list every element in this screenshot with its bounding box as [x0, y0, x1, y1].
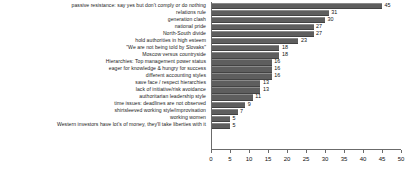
bar-value-label: 13	[263, 86, 269, 92]
x-tick-label: 20	[284, 155, 291, 163]
x-tick-label: 5	[228, 155, 231, 163]
category-label: generation clash	[168, 16, 206, 23]
bar	[211, 17, 325, 23]
x-tick-label: 25	[303, 155, 310, 163]
x-tick	[211, 150, 212, 153]
x-tick-label: 50	[398, 155, 405, 163]
bar-value-label: 45	[385, 2, 391, 8]
bar-value-label: 31	[331, 9, 337, 15]
category-label: authoritarian leadership style	[139, 93, 206, 100]
category-label: Western investors have lot's of money, t…	[57, 121, 206, 128]
bar-value-label: 23	[301, 37, 307, 43]
bar-value-label: 16	[274, 72, 280, 78]
bar	[211, 66, 272, 72]
category-label: Hierarchies: Top management power status	[106, 58, 206, 65]
bar	[211, 10, 329, 16]
category-label: time issues: deadlines are not observed	[114, 100, 206, 107]
category-label: North-South divide	[163, 30, 206, 37]
x-tick-label: 0	[209, 155, 212, 163]
bar-value-label: 27	[316, 30, 322, 36]
bar-value-label: 16	[274, 65, 280, 71]
category-label: "We are not being told by Slovaks"	[126, 44, 206, 51]
bar-value-label: 18	[282, 51, 288, 57]
category-label: shirtsleeved working style/improvisation	[115, 107, 207, 114]
x-tick-label: 40	[360, 155, 367, 163]
x-tick-label: 30	[322, 155, 329, 163]
x-tick	[306, 150, 307, 153]
bar	[211, 116, 230, 122]
horizontal-bar-chart: passive resistance: say yes but don't co…	[0, 0, 416, 170]
bar-value-label: 5	[233, 122, 236, 128]
category-label: working women	[170, 114, 206, 121]
bar-value-label: 9	[248, 101, 251, 107]
bar	[211, 45, 279, 51]
bar-value-label: 18	[282, 44, 288, 50]
x-tick	[382, 150, 383, 153]
bar-value-label: 30	[328, 16, 334, 22]
x-tick	[363, 150, 364, 153]
x-tick-label: 15	[265, 155, 272, 163]
y-axis-line	[211, 2, 212, 150]
bar	[211, 123, 230, 129]
x-tick	[230, 150, 231, 153]
bar	[211, 94, 253, 100]
x-tick	[401, 150, 402, 153]
category-label: relations rule	[176, 9, 206, 16]
bar	[211, 59, 272, 65]
x-tick	[325, 150, 326, 153]
x-tick	[344, 150, 345, 153]
x-tick-label: 35	[341, 155, 348, 163]
bar-value-label: 5	[233, 115, 236, 121]
category-axis-labels: passive resistance: say yes but don't co…	[0, 0, 209, 150]
x-tick-label: 45	[379, 155, 386, 163]
category-label: eager for knowledge & hungry for success	[109, 65, 206, 72]
bar	[211, 87, 260, 93]
x-tick	[268, 150, 269, 153]
bar	[211, 52, 279, 58]
category-label: Moscow versus countryside	[142, 51, 206, 58]
category-label: passive resistance: say yes but don't co…	[72, 2, 206, 9]
category-label: hold authorities in high esteem	[135, 37, 206, 44]
x-tick-label: 10	[246, 155, 253, 163]
category-label: different accounting styles	[146, 72, 206, 79]
bar	[211, 3, 382, 9]
bar	[211, 80, 260, 86]
bar-value-label: 27	[316, 23, 322, 29]
plot-area: 45313027272318181616161313119755	[211, 0, 411, 150]
x-tick	[249, 150, 250, 153]
bar-value-label: 16	[274, 58, 280, 64]
bar-value-label: 7	[240, 108, 243, 114]
bar	[211, 31, 314, 37]
bar-value-label: 13	[263, 79, 269, 85]
bar-value-label: 11	[255, 93, 261, 99]
category-label: lack of initiative/risk avoidance	[136, 86, 206, 93]
category-label: national pride	[175, 23, 206, 30]
category-label: save face / respect hierarchies	[135, 79, 206, 86]
bar	[211, 24, 314, 30]
x-tick	[287, 150, 288, 153]
